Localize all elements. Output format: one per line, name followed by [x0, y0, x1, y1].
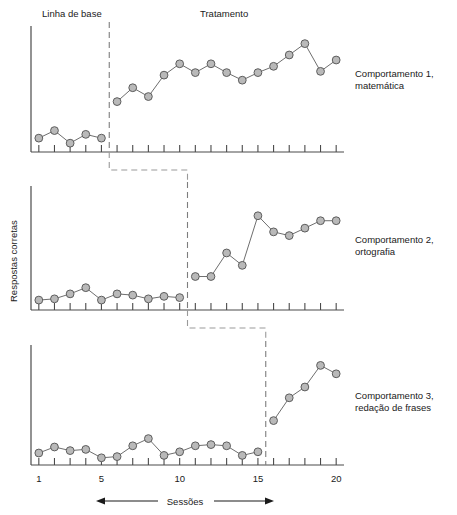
x-tick-label: 20	[331, 473, 342, 484]
data-point	[160, 292, 168, 300]
phase-connector-1-to-2	[109, 152, 187, 182]
data-point	[176, 448, 184, 456]
panel-1	[31, 22, 344, 152]
data-point	[160, 452, 168, 460]
data-point	[270, 62, 278, 70]
data-point	[129, 84, 137, 92]
data-point	[129, 291, 137, 299]
data-point	[332, 370, 340, 378]
data-point	[129, 442, 137, 450]
data-point	[113, 290, 121, 298]
data-point	[207, 273, 215, 281]
panel-label-2: ortografia	[355, 246, 396, 257]
data-point	[332, 56, 340, 64]
treatment-phase-label: Tratamento	[200, 8, 248, 19]
data-point	[254, 448, 262, 456]
data-point	[51, 443, 59, 451]
data-point	[285, 51, 293, 59]
x-tick-label: 15	[253, 473, 264, 484]
x-axis-title: Sessões	[167, 496, 204, 507]
data-point	[51, 295, 59, 303]
x-tick-label: 10	[174, 473, 185, 484]
data-point	[98, 296, 106, 304]
data-point	[144, 435, 152, 443]
data-point	[285, 394, 293, 402]
data-point	[144, 93, 152, 101]
data-point	[238, 452, 246, 460]
panel-label-3: Comportamento 3,	[355, 390, 434, 401]
data-point	[191, 273, 199, 281]
data-point	[270, 417, 278, 425]
series-line-baseline-panel-2	[39, 288, 180, 300]
panel-2	[31, 182, 344, 310]
data-point	[223, 249, 231, 257]
x-tick-label: 5	[99, 473, 104, 484]
data-point	[82, 130, 90, 138]
data-point	[113, 98, 121, 106]
data-point	[332, 217, 340, 225]
series-line-treatment-panel-2	[195, 216, 336, 277]
data-point	[35, 134, 43, 142]
data-point	[35, 296, 43, 304]
data-point	[270, 228, 278, 236]
data-point	[317, 67, 325, 75]
data-point	[82, 446, 90, 454]
x-axis-arrow-right-head	[265, 498, 274, 505]
phase-connector-2-to-3	[188, 310, 266, 341]
data-point	[223, 69, 231, 77]
data-point	[223, 442, 231, 450]
data-point	[191, 69, 199, 77]
data-point	[66, 447, 74, 455]
panel-label-1: matemática	[355, 80, 405, 91]
y-axis-title: Respostas corretas	[8, 220, 19, 302]
data-point	[160, 71, 168, 79]
data-point	[35, 449, 43, 457]
data-point	[82, 284, 90, 292]
panel-label-1: Comportamento 1,	[355, 68, 434, 79]
data-point	[207, 60, 215, 68]
data-point	[207, 441, 215, 449]
x-axis-arrow-left-head	[96, 498, 105, 505]
data-point	[301, 40, 309, 48]
data-point	[238, 261, 246, 269]
data-point	[317, 217, 325, 225]
multiple-baseline-chart: Linha de baseTratamento15101520SessõesRe…	[0, 0, 457, 515]
data-point	[98, 454, 106, 462]
data-point	[254, 212, 262, 220]
data-point	[285, 232, 293, 240]
data-point	[51, 127, 59, 135]
data-point	[66, 139, 74, 147]
data-point	[66, 290, 74, 298]
data-point	[176, 294, 184, 302]
baseline-phase-label: Linha de base	[42, 8, 102, 19]
data-point	[238, 76, 246, 84]
figure-root: Linha de baseTratamento15101520SessõesRe…	[0, 0, 457, 515]
data-point	[301, 224, 309, 232]
x-tick-label: 1	[36, 473, 41, 484]
panel-label-3: redação de frases	[355, 402, 431, 413]
data-point	[254, 69, 262, 77]
data-point	[98, 134, 106, 142]
data-point	[317, 362, 325, 370]
panel-label-2: Comportamento 2,	[355, 234, 434, 245]
data-point	[176, 60, 184, 68]
data-point	[301, 383, 309, 391]
data-point	[144, 295, 152, 303]
data-point	[113, 453, 121, 461]
panel-3	[31, 341, 344, 465]
data-point	[191, 442, 199, 450]
series-line-treatment-panel-3	[274, 365, 337, 420]
